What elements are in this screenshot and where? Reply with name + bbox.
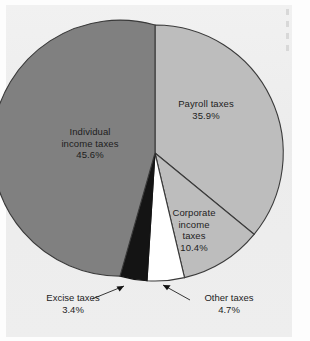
slice-label-other-taxes: Other taxes 4.7%: [192, 292, 266, 316]
slice-label-payroll-taxes-name: Payroll taxes: [163, 98, 249, 110]
slice-label-corporate-income-taxes-line1: Corporate: [163, 207, 225, 219]
slice-label-excise-taxes-name: Excise taxes: [32, 292, 114, 304]
slice-label-individual-income-taxes-line1: Individual: [44, 126, 136, 138]
slice-label-individual-income-taxes: Individual income taxes 45.6%: [44, 126, 136, 161]
slice-label-payroll-taxes-value: 35.9%: [163, 110, 249, 122]
slice-label-individual-income-taxes-line2: income taxes: [44, 138, 136, 150]
slice-label-payroll-taxes: Payroll taxes 35.9%: [163, 98, 249, 121]
slice-label-corporate-income-taxes: Corporate income taxes 10.4%: [163, 207, 225, 253]
pie-slices: [0, 20, 283, 281]
pie-chart: Payroll taxes 35.9% Individual income ta…: [0, 0, 310, 341]
slice-label-other-taxes-value: 4.7%: [192, 304, 266, 316]
leader-line-other-taxes: [163, 285, 190, 300]
slice-label-individual-income-taxes-value: 45.6%: [44, 149, 136, 161]
pie-chart-svg: [0, 0, 310, 341]
slice-label-other-taxes-name: Other taxes: [192, 292, 266, 304]
slice-label-corporate-income-taxes-line3: taxes: [163, 230, 225, 242]
slice-label-excise-taxes: Excise taxes 3.4%: [32, 292, 114, 316]
figure-page: Payroll taxes 35.9% Individual income ta…: [0, 0, 310, 341]
slice-label-excise-taxes-value: 3.4%: [32, 304, 114, 316]
slice-label-corporate-income-taxes-value: 10.4%: [163, 242, 225, 254]
slice-label-corporate-income-taxes-line2: income: [163, 219, 225, 231]
